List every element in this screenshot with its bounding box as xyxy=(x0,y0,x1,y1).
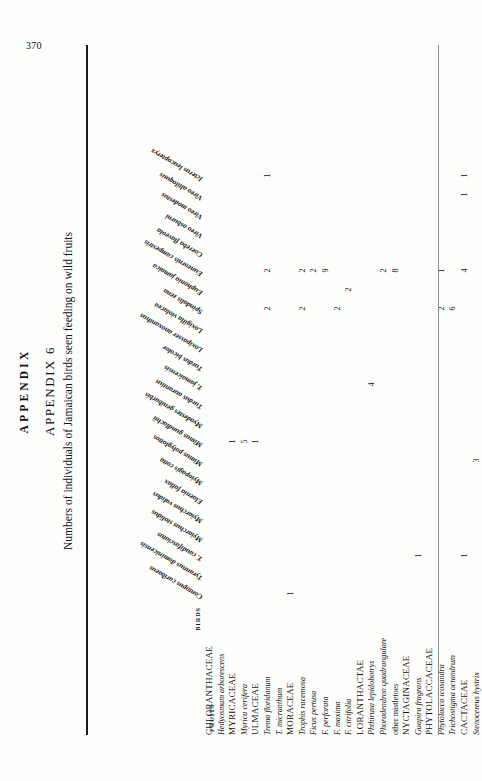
cell-10-0 xyxy=(319,584,331,603)
cell-10-16 xyxy=(319,280,331,299)
cell-11-6 xyxy=(331,470,343,489)
cell-23-10 xyxy=(470,394,482,413)
cell-9-19 xyxy=(308,223,320,242)
cell-2-6 xyxy=(227,470,239,489)
cell-11-4 xyxy=(331,508,343,527)
cell-1-16 xyxy=(215,280,227,299)
table-row: Phthirusa lepidobotrys4 xyxy=(366,166,378,735)
cell-19-17 xyxy=(424,261,436,280)
cell-17-16 xyxy=(401,280,413,299)
cell-21-21 xyxy=(447,185,459,204)
cell-19-2 xyxy=(424,546,436,565)
cell-1-18 xyxy=(215,242,227,261)
cell-19-22 xyxy=(424,166,436,185)
cell-23-2 xyxy=(470,546,482,565)
row-label: other mistletoes xyxy=(389,603,401,735)
cell-7-16 xyxy=(285,280,297,299)
cell-17-3 xyxy=(401,527,413,546)
cell-10-9 xyxy=(319,413,331,432)
cell-22-13 xyxy=(459,337,471,356)
cell-3-7 xyxy=(238,451,250,470)
table-body: CHLORANTHACEAEHedyosmum arborescensMYRIC… xyxy=(204,166,482,735)
cell-21-13 xyxy=(447,337,459,356)
column-header-9: Myadestes genibarbis xyxy=(86,413,204,432)
cell-5-21 xyxy=(261,185,273,204)
cell-1-1 xyxy=(215,565,227,584)
cell-22-11 xyxy=(459,375,471,394)
table-row: F. perforata9 xyxy=(319,166,331,735)
cell-23-11 xyxy=(470,375,482,394)
row-label: MORACEAE xyxy=(285,603,297,735)
cell-5-4 xyxy=(261,508,273,527)
cell-1-6 xyxy=(215,470,227,489)
cell-22-21: 1 xyxy=(459,185,471,204)
cell-13-12 xyxy=(354,356,366,375)
cell-10-14 xyxy=(319,318,331,337)
cell-4-10 xyxy=(250,394,262,413)
cell-14-9 xyxy=(366,413,378,432)
cell-6-19 xyxy=(273,223,285,242)
cell-4-18 xyxy=(250,242,262,261)
cell-12-19 xyxy=(343,223,355,242)
cell-21-20 xyxy=(447,204,459,223)
cell-18-10 xyxy=(412,394,424,413)
cell-10-10 xyxy=(319,394,331,413)
cell-14-14 xyxy=(366,318,378,337)
cell-18-8 xyxy=(412,432,424,451)
cell-5-2 xyxy=(261,546,273,565)
cell-7-14 xyxy=(285,318,297,337)
cell-23-6 xyxy=(470,470,482,489)
cell-6-11 xyxy=(273,375,285,394)
cell-9-13 xyxy=(308,337,320,356)
cell-18-0 xyxy=(412,584,424,603)
cell-9-16 xyxy=(308,280,320,299)
row-label: Guapira fragrans xyxy=(412,603,424,735)
cell-23-14 xyxy=(470,318,482,337)
cell-0-10 xyxy=(204,394,216,413)
cell-6-17 xyxy=(273,261,285,280)
cell-16-5 xyxy=(389,489,401,508)
cell-10-2 xyxy=(319,546,331,565)
cell-1-11 xyxy=(215,375,227,394)
column-header-1: Tyrannus dominicensis xyxy=(86,565,204,584)
table-head: BIRDS FRUITS Contopus caribaeusTyrannus … xyxy=(86,166,204,735)
cell-12-2 xyxy=(343,546,355,565)
cell-2-22 xyxy=(227,166,239,185)
cell-21-1 xyxy=(447,565,459,584)
cell-8-16 xyxy=(296,280,308,299)
cell-23-20 xyxy=(470,204,482,223)
cell-12-3 xyxy=(343,527,355,546)
cell-15-9 xyxy=(377,413,389,432)
cell-8-22 xyxy=(296,166,308,185)
column-header-label: Icterus leucopteryx xyxy=(148,146,203,183)
cell-18-9 xyxy=(412,413,424,432)
cell-13-15 xyxy=(354,299,366,318)
cell-23-8 xyxy=(470,432,482,451)
cell-9-20 xyxy=(308,204,320,223)
cell-12-5 xyxy=(343,489,355,508)
cell-19-5 xyxy=(424,489,436,508)
cell-19-8 xyxy=(424,432,436,451)
cell-10-11 xyxy=(319,375,331,394)
cell-22-17: 4 xyxy=(459,261,471,280)
cell-15-13 xyxy=(377,337,389,356)
row-label: Phoradendron quadrangulare xyxy=(377,603,389,735)
cell-19-1 xyxy=(424,565,436,584)
cell-1-4 xyxy=(215,508,227,527)
cell-17-15 xyxy=(401,299,413,318)
cell-10-13 xyxy=(319,337,331,356)
cell-3-10 xyxy=(238,394,250,413)
cell-14-22 xyxy=(366,166,378,185)
appendix-label: APPENDIX 6 xyxy=(42,11,58,771)
cell-10-8 xyxy=(319,432,331,451)
cell-9-22 xyxy=(308,166,320,185)
cell-0-3 xyxy=(204,527,216,546)
cell-8-0 xyxy=(296,584,308,603)
cell-3-15 xyxy=(238,299,250,318)
cell-7-11 xyxy=(285,375,297,394)
cell-11-1 xyxy=(331,565,343,584)
cell-18-12 xyxy=(412,356,424,375)
cell-9-2 xyxy=(308,546,320,565)
cell-19-19 xyxy=(424,223,436,242)
cell-14-18 xyxy=(366,242,378,261)
